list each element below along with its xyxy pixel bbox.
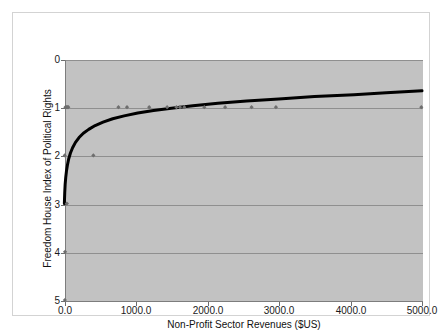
x-tick-label-0: 0.0 (35, 305, 95, 316)
y-tick-label-3: 3 (20, 200, 60, 210)
gridline-y-3 (65, 205, 423, 206)
gridline-y-0 (65, 60, 423, 61)
y-tick-label-4: 4 (20, 248, 60, 258)
y-tick-label-2: 2 (20, 151, 60, 161)
x-tick-label-3000: 3000.0 (249, 305, 309, 316)
y-tick-mark-2 (61, 156, 65, 157)
x-tick-label-4000: 4000.0 (321, 305, 381, 316)
chart-frame: 0 1 2 3 4 5 0.0 1000.0 2000.0 3000.0 400… (12, 12, 430, 316)
y-axis-line (65, 60, 66, 301)
y-tick-mark-4 (61, 253, 65, 254)
x-axis-line (65, 301, 423, 302)
y-tick-mark-1 (61, 108, 65, 109)
x-tick-label-1000: 1000.0 (106, 305, 166, 316)
x-tick-label-5000: 5000.0 (392, 305, 444, 316)
y-tick-mark-3 (61, 205, 65, 206)
y-axis-title: Freedom House Index of Political Rights (42, 59, 53, 299)
plot-area (65, 60, 423, 301)
gridline-y-2 (65, 156, 423, 157)
x-axis-title: Non-Profit Sector Revenues ($US) (65, 319, 423, 330)
gridline-y-4 (65, 253, 423, 254)
gridline-y-1 (65, 108, 423, 109)
chart-figure: 0 1 2 3 4 5 0.0 1000.0 2000.0 3000.0 400… (0, 0, 444, 332)
y-tick-mark-0 (61, 60, 65, 61)
y-tick-label-0: 0 (20, 55, 60, 65)
y-tick-label-1: 1 (20, 103, 60, 113)
x-tick-label-2000: 2000.0 (178, 305, 238, 316)
